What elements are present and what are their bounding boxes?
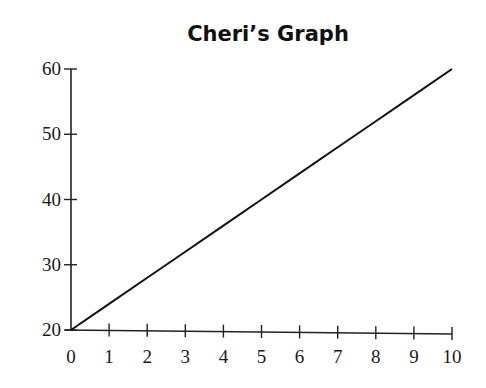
x-tick-label: 10 [443, 346, 462, 367]
x-tick-label: 5 [257, 346, 267, 367]
x-tick-label: 4 [219, 346, 229, 367]
x-tick-label: 8 [371, 346, 381, 367]
x-tick-label: 6 [295, 346, 305, 367]
y-tick-label: 20 [42, 319, 61, 340]
y-tick-label: 50 [42, 123, 61, 144]
x-axis [65, 330, 452, 334]
x-tick-label: 3 [181, 346, 191, 367]
y-tick-label: 60 [42, 58, 61, 79]
x-tick-label: 0 [66, 346, 76, 367]
x-tick-label: 1 [104, 346, 114, 367]
y-tick-label: 40 [42, 189, 61, 210]
x-tick-label: 2 [142, 346, 152, 367]
y-tick-label: 30 [42, 254, 61, 275]
x-tick-label: 9 [409, 346, 419, 367]
line-chart: 2030405060012345678910 [0, 0, 486, 388]
x-tick-label: 7 [333, 346, 343, 367]
data-line [71, 69, 452, 330]
